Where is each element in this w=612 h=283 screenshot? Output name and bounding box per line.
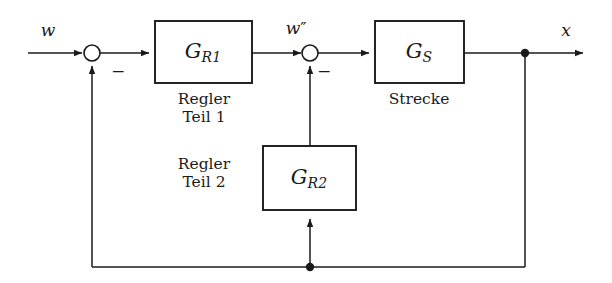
block-label-gs-subscript: S	[422, 49, 432, 65]
summing-junction-1	[84, 45, 100, 61]
block-label-gr2-subscript: R2	[307, 175, 327, 191]
block-label-gr2: GR2	[291, 165, 328, 191]
minus-sign-sum2: −	[317, 61, 331, 81]
block-label-gs: GS	[406, 39, 433, 65]
summing-junction-2	[302, 45, 318, 61]
block-caption-gr1: Regler Teil 1	[178, 90, 230, 127]
block-label-gs-main: G	[406, 39, 423, 63]
signal-label-w: w	[41, 20, 56, 40]
signal-label-w-double-prime-base: w	[286, 18, 301, 38]
block-caption-gr2: Regler Teil 2	[178, 155, 230, 192]
block-label-gr1-main: G	[185, 39, 202, 63]
block-caption-gr1-line1: Regler	[178, 90, 230, 108]
junction-dot-feedback-tap	[306, 263, 314, 271]
block-caption-gr2-line2: Teil 2	[178, 173, 230, 191]
diagram-vector-layer	[0, 0, 612, 283]
block-diagram-canvas: w w″ x − − GR1 Regler Teil 1 GS Strecke …	[0, 0, 612, 283]
block-caption-gr1-line2: Teil 1	[178, 108, 230, 126]
signal-label-w-double-prime: w″	[286, 18, 306, 38]
block-label-gr2-main: G	[291, 165, 308, 189]
block-caption-gs-line1: Strecke	[389, 90, 450, 108]
block-caption-gs: Strecke	[389, 90, 450, 108]
minus-sign-sum1: −	[111, 61, 125, 81]
block-label-gr1: GR1	[185, 39, 222, 65]
block-label-gr1-subscript: R1	[201, 49, 221, 65]
signal-label-x: x	[561, 20, 571, 40]
junction-dot-output-tap	[521, 49, 529, 57]
block-caption-gr2-line1: Regler	[178, 155, 230, 173]
signal-label-w-double-prime-marks: ″	[300, 18, 306, 38]
